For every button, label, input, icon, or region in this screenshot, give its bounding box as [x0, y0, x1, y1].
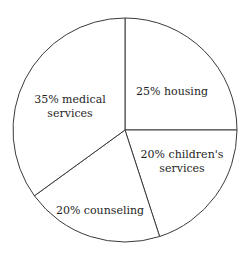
- slice-label-line: 25% housing: [136, 85, 208, 98]
- slice-label-line: 35% medical: [34, 93, 106, 106]
- slice-label-line: 20% children's: [141, 148, 224, 161]
- slice-label-line: services: [159, 162, 205, 175]
- pie-chart: 25% housing20% children'sservices20% cou…: [0, 0, 245, 259]
- pie-slice-housing: [125, 18, 237, 130]
- slice-label-line: 20% counseling: [56, 204, 144, 217]
- slice-label-line: services: [47, 107, 93, 120]
- slice-label-housing: 25% housing: [136, 85, 208, 98]
- slice-label-counseling: 20% counseling: [56, 204, 144, 217]
